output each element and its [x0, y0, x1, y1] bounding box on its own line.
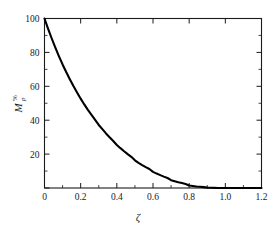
y-tick-label: 60 [30, 82, 40, 92]
x-tick-label: 0.6 [147, 192, 159, 202]
x-tick-label: 1.0 [219, 192, 231, 202]
y-axis-title-base: M [12, 103, 24, 114]
x-tick-label: 0 [42, 192, 47, 202]
x-tick-label: 0.4 [111, 192, 123, 202]
x-tick-label: 1.2 [256, 192, 268, 202]
percent-overshoot-chart: 00.20.40.60.81.01.2 20406080100 ζ M p % [0, 0, 276, 229]
figure-container: 00.20.40.60.81.01.2 20406080100 ζ M p % [0, 0, 276, 229]
y-tick-label: 40 [30, 116, 40, 126]
y-tick-label: 100 [25, 14, 40, 24]
y-axis-title-superscript: % [11, 95, 19, 101]
x-tick-label: 0.2 [75, 192, 87, 202]
y-tick-label: 20 [30, 150, 40, 160]
x-tick-label: 0.8 [183, 192, 195, 202]
y-tick-label: 80 [30, 48, 40, 58]
y-axis-title-subscript: p [19, 97, 27, 102]
